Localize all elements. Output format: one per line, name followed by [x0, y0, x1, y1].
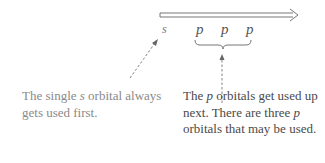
p-orbital-label: p [196, 21, 204, 38]
curly-brace-icon [195, 40, 251, 49]
double-arrow-icon [160, 9, 298, 21]
s-orbital-caption: The single s orbital always gets used fi… [22, 88, 172, 121]
p-orbitals-caption: The p orbitals get used up next. There a… [183, 88, 318, 138]
p-orbital-label: p [221, 21, 229, 38]
s-orbital-label: s [162, 22, 167, 37]
p-orbital-label: p [246, 21, 254, 38]
dashed-arrow-to-s-icon [130, 39, 158, 78]
